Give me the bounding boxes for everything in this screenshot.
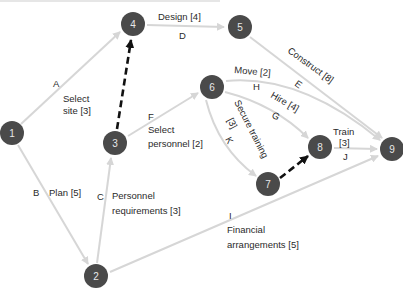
node-label: 7	[265, 179, 271, 190]
label-F-letter: F	[148, 111, 154, 122]
label-K-text2: [3]	[225, 116, 240, 130]
label-A-text2: site [3]	[63, 105, 91, 116]
node-label: 3	[112, 138, 118, 149]
label-F-text1: Select	[148, 124, 175, 135]
label-B-letter: B	[33, 187, 39, 198]
label-A-text1: Select	[63, 93, 90, 104]
edge-E	[250, 37, 382, 138]
label-H-letter: H	[253, 81, 260, 92]
node-8: 8	[308, 135, 332, 159]
node-label: 6	[209, 82, 215, 93]
label-F-text2: personnel [2]	[148, 138, 203, 149]
label-J-letter: J	[343, 151, 348, 162]
node-1: 1	[0, 121, 24, 145]
label-D-text: Design [4]	[158, 11, 201, 22]
label-I-text2: arrangements [5]	[227, 239, 299, 250]
node-3: 3	[103, 131, 127, 155]
label-C-text1: Personnel	[112, 190, 155, 201]
node-6: 6	[200, 75, 224, 99]
label-D-letter: D	[179, 30, 186, 41]
label-B-text: Plan [5]	[49, 187, 81, 198]
label-I-text1: Financial	[227, 224, 265, 235]
project-network-diagram: 1 2 3 4 5 6 7 8 9 A Select site [3] B Pl…	[0, 0, 403, 292]
node-label: 2	[93, 271, 99, 282]
cropped-title-fragment	[0, 0, 220, 2]
edge-B	[18, 145, 88, 264]
node-label: 9	[389, 144, 395, 155]
edge-J	[334, 148, 377, 149]
label-J-text2: [3]	[339, 137, 350, 148]
edge-C	[97, 158, 111, 263]
node-label: 1	[9, 128, 15, 139]
node-4: 4	[121, 12, 145, 36]
label-C-text2: requirements [3]	[112, 205, 181, 216]
label-E-letter: E	[293, 78, 305, 91]
label-C-letter: C	[97, 191, 104, 202]
label-J-text1: Train	[333, 126, 354, 137]
node-2: 2	[84, 264, 108, 288]
node-label: 5	[237, 22, 243, 33]
node-5: 5	[228, 15, 252, 39]
edge-G	[225, 92, 308, 138]
node-7: 7	[256, 172, 280, 196]
label-H-text: Move [2]	[234, 64, 271, 78]
dummy-edge-3-4	[117, 40, 131, 129]
node-label: 8	[317, 142, 323, 153]
edge-D	[147, 25, 224, 27]
label-E-text: Construct [8]	[286, 45, 336, 86]
node-9: 9	[380, 137, 403, 161]
node-label: 4	[130, 19, 136, 30]
label-I-letter: I	[229, 210, 232, 221]
dummy-edge-7-8	[280, 156, 308, 178]
label-A-letter: A	[53, 78, 60, 89]
